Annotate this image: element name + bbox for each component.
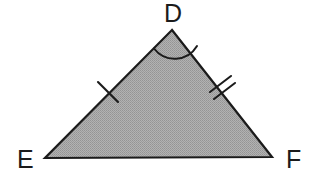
vertex-label-D: D bbox=[164, 1, 182, 26]
vertex-label-F: F bbox=[286, 147, 301, 172]
triangle-DEF-body bbox=[45, 30, 272, 158]
vertex-label-E: E bbox=[17, 147, 34, 172]
triangle-diagram-svg bbox=[0, 0, 315, 175]
geometry-figure: D E F bbox=[0, 0, 315, 175]
